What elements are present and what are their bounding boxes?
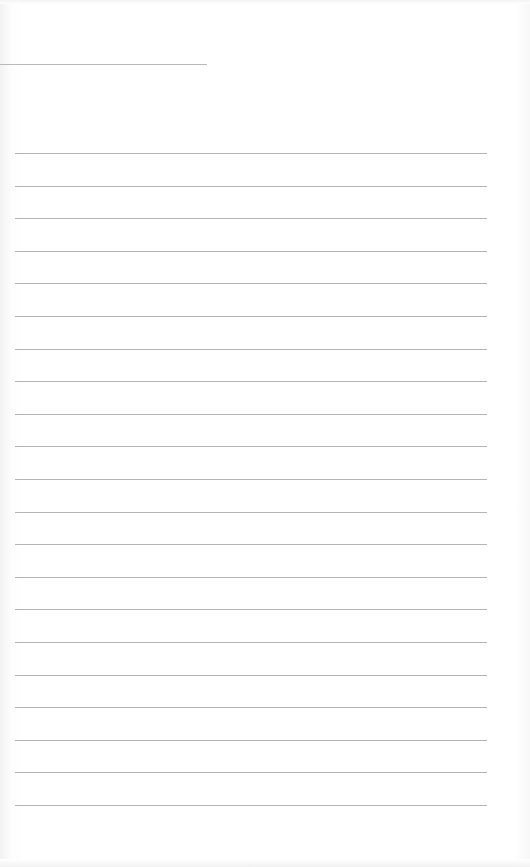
line-text xyxy=(20,551,480,577)
ruled-line xyxy=(15,544,487,545)
line-text xyxy=(20,681,480,707)
line-text xyxy=(20,257,480,283)
ruled-line xyxy=(15,707,487,708)
ruled-line xyxy=(15,251,487,252)
line-text xyxy=(20,779,480,805)
line-text xyxy=(20,355,480,381)
line-text xyxy=(20,616,480,642)
ruled-line xyxy=(15,609,487,610)
ruled-line xyxy=(15,381,487,382)
page-bottom-edge xyxy=(0,859,530,867)
line-text xyxy=(20,453,480,479)
ruled-line xyxy=(15,512,487,513)
ruled-line xyxy=(15,349,487,350)
header-rule xyxy=(0,64,207,65)
notepaper-page xyxy=(0,0,530,867)
ruled-line xyxy=(15,414,487,415)
ruled-line xyxy=(15,740,487,741)
ruled-line xyxy=(15,675,487,676)
line-text xyxy=(20,649,480,675)
ruled-line xyxy=(15,805,487,806)
ruled-line xyxy=(15,479,487,480)
ruled-line xyxy=(15,772,487,773)
ruled-line xyxy=(15,642,487,643)
line-text xyxy=(20,192,480,218)
line-text xyxy=(20,160,480,186)
line-text xyxy=(20,323,480,349)
line-text xyxy=(20,486,480,512)
line-text xyxy=(20,746,480,772)
ruled-line xyxy=(15,186,487,187)
line-text xyxy=(20,518,480,544)
line-text xyxy=(20,583,480,609)
line-text xyxy=(20,714,480,740)
ruled-line xyxy=(15,577,487,578)
line-text xyxy=(20,225,480,251)
ruled-line xyxy=(15,153,487,154)
line-text xyxy=(20,127,480,153)
ruled-line xyxy=(15,316,487,317)
page-top-edge xyxy=(0,0,530,4)
ruled-line xyxy=(15,218,487,219)
line-text xyxy=(20,290,480,316)
line-text xyxy=(20,388,480,414)
line-text xyxy=(20,420,480,446)
ruled-line xyxy=(15,283,487,284)
ruled-line xyxy=(15,446,487,447)
